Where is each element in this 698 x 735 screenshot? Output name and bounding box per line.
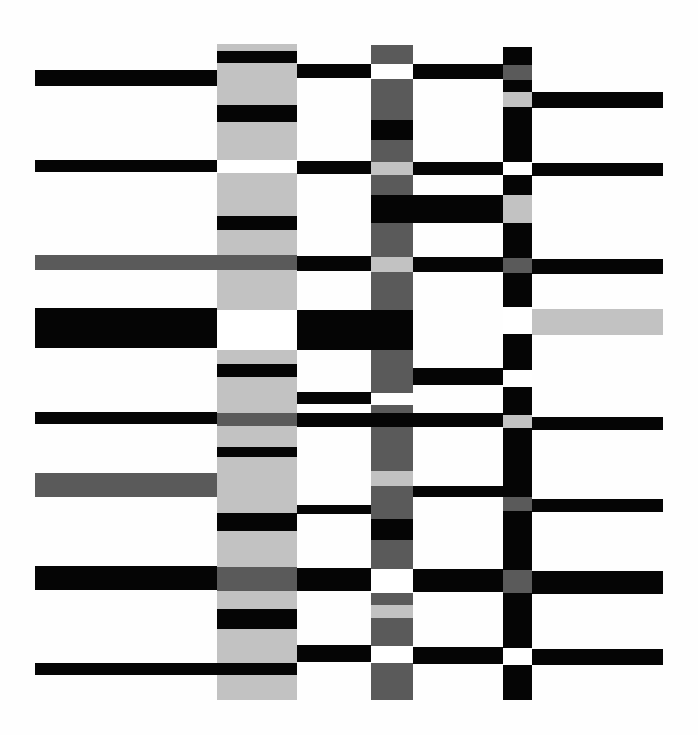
bar-black [532, 259, 663, 274]
bar-black [371, 195, 503, 223]
bar-black [371, 519, 413, 540]
bar-black [297, 256, 371, 271]
bar-black [217, 447, 297, 457]
bar-black [297, 310, 413, 350]
bar-black [297, 161, 371, 174]
bar-black [35, 663, 297, 675]
bar-light [371, 257, 413, 272]
bar-black [413, 368, 503, 385]
bar-black [297, 505, 371, 514]
bar-dark [35, 255, 297, 270]
bar-black [532, 163, 663, 176]
bar-white [371, 646, 413, 663]
bar-white [371, 64, 413, 79]
bar-black [217, 609, 297, 629]
bar-white [371, 569, 413, 593]
bar-black [297, 568, 371, 591]
bar-white [503, 162, 532, 175]
bar-dark [35, 473, 217, 497]
bar-black [532, 649, 663, 665]
bar-white [217, 310, 297, 350]
bar-light [371, 605, 413, 618]
bar-light [503, 195, 532, 223]
bar-black [217, 216, 297, 230]
bar-black [371, 120, 413, 140]
bar-white [217, 160, 297, 173]
bar-black [297, 64, 371, 78]
bar-black [413, 257, 503, 272]
bar-light [503, 92, 532, 107]
bar-dark [371, 45, 413, 700]
bar-dark [503, 570, 532, 593]
bar-black [532, 92, 663, 108]
bar-black [217, 513, 297, 531]
abstract-artwork-canvas [0, 0, 698, 735]
bar-black [297, 413, 503, 427]
bar-black [297, 645, 371, 662]
bar-black [413, 647, 503, 664]
bar-black [413, 64, 503, 79]
bar-white [371, 393, 413, 405]
bar-black [532, 499, 663, 512]
bar-black [35, 160, 217, 172]
bar-white [503, 648, 532, 665]
bar-light [371, 471, 413, 486]
bar-light [532, 309, 663, 335]
bar-dark [371, 405, 413, 413]
bar-black [217, 51, 297, 63]
bar-light [503, 415, 532, 428]
bar-dark [503, 65, 532, 80]
bar-white [503, 307, 532, 334]
bar-black [35, 412, 217, 424]
bar-black [532, 417, 663, 430]
bar-black [35, 566, 217, 590]
bar-dark [503, 258, 532, 273]
bar-black [35, 70, 217, 86]
bar-black [217, 105, 297, 122]
bar-dark [217, 413, 297, 426]
bar-white [503, 370, 532, 387]
bar-black [413, 569, 503, 592]
bar-black [297, 392, 371, 404]
bar-black [35, 308, 217, 348]
bar-black [217, 364, 297, 377]
bar-dark [217, 567, 297, 591]
bar-black [532, 571, 663, 594]
bar-black [413, 486, 503, 497]
bar-light [371, 162, 413, 175]
bar-dark [503, 497, 532, 511]
bar-black [413, 162, 503, 175]
